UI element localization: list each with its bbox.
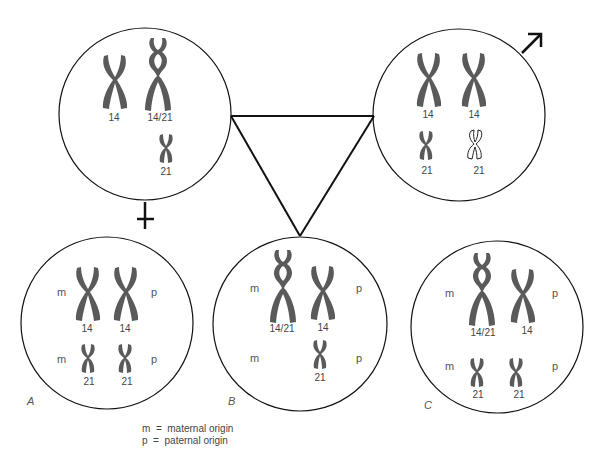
origin-label-paternal: p (151, 287, 157, 298)
origin-label-paternal: p (356, 283, 362, 294)
legend-maternal: m = maternal origin (142, 423, 233, 435)
chromosome-14-icon (114, 267, 138, 321)
chromosome-label: 21 (513, 390, 524, 400)
chromosome-14-icon (417, 53, 441, 107)
female-parent-cell (59, 28, 231, 200)
chromosome-14-icon (311, 266, 335, 320)
chromosome-21-icon (419, 131, 432, 160)
chromosome-14-icon (76, 267, 100, 321)
male-parent-cell (373, 29, 545, 201)
legend-paternal: p = paternal origin (142, 435, 233, 447)
chromosome-14-icon (511, 269, 535, 323)
chromosome-label: 14 (468, 110, 479, 120)
chromosome-label: 14/21 (470, 328, 495, 338)
offspring-cell-c (411, 241, 583, 413)
chromosome-label: 21 (160, 167, 171, 177)
chromosome-label: 14/21 (269, 324, 294, 334)
panel-label-c: C (424, 399, 432, 411)
chromosome-14-21-translocation-icon (270, 250, 296, 323)
female-symbol-icon (137, 202, 154, 229)
chromosome-21-icon (509, 358, 522, 387)
pedigree-diagram (0, 0, 605, 474)
legend: m = maternal origin p = paternal origin (142, 423, 233, 447)
chromosome-label: 21 (83, 377, 94, 387)
origin-label-maternal: m (250, 353, 259, 364)
origin-label-paternal: p (356, 353, 362, 364)
chromosome-14-21-translocation-icon (469, 253, 495, 326)
offspring-cell-a (21, 237, 193, 409)
origin-label-paternal: p (552, 361, 558, 372)
origin-label-maternal: m (57, 287, 66, 298)
chromosome-label: 21 (121, 377, 132, 387)
male-symbol-icon (522, 34, 541, 53)
chromosome-14-icon (462, 53, 486, 107)
chromosome-21-icon (313, 340, 326, 369)
chromosome-21-icon (81, 344, 94, 373)
chromosome-label: 14 (521, 326, 532, 336)
chromosome-21-icon (159, 134, 172, 163)
chromosome-label: 21 (473, 166, 484, 176)
chromosome-label: 14/21 (147, 113, 172, 123)
offspring-cell-b (213, 237, 387, 411)
chromosome-14-icon (103, 55, 127, 109)
chromosome-14-21-translocation-icon (145, 38, 171, 111)
mating-triangle (231, 116, 374, 236)
chromosome-label: 14 (317, 323, 328, 333)
origin-label-maternal: m (445, 288, 454, 299)
chromosome-label: 21 (472, 390, 483, 400)
chromosome-label: 14 (422, 110, 433, 120)
panel-label-a: A (27, 395, 34, 407)
chromosome-label: 21 (421, 166, 432, 176)
origin-label-paternal: p (552, 288, 558, 299)
origin-label-maternal: m (57, 354, 66, 365)
panel-label-b: B (228, 395, 235, 407)
chromosome-label: 14 (119, 324, 130, 334)
chromosome-21-icon (470, 358, 483, 387)
chromosome-21-outlined-icon (468, 130, 482, 159)
chromosome-label: 21 (314, 373, 325, 383)
origin-label-paternal: p (151, 354, 157, 365)
origin-label-maternal: m (250, 283, 259, 294)
chromosome-21-icon (118, 344, 131, 373)
origin-label-maternal: m (445, 361, 454, 372)
chromosome-label: 14 (108, 113, 119, 123)
chromosome-label: 14 (81, 324, 92, 334)
